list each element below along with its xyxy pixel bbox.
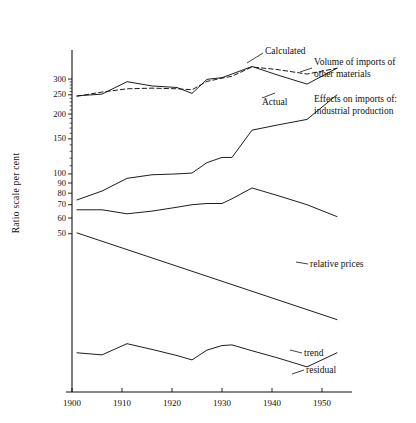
series-line-relative-prices (77, 188, 337, 217)
y-axis-title: Ratio scale per cent (11, 138, 21, 248)
chart-series-group (77, 66, 337, 366)
annotation-effects-line-2: industrial production (314, 106, 393, 116)
y-tick-label: 200 (24, 109, 66, 119)
annotation-relative-prices: relative prices (310, 258, 364, 270)
x-tick-label: 1920 (152, 398, 192, 408)
leader-line-relative-prices (296, 262, 308, 264)
y-tick-label: 100 (24, 168, 66, 178)
x-tick-label: 1930 (202, 398, 242, 408)
annotation-effects-line-1: Effects on imports of: (314, 94, 397, 104)
annotation-volume-line-1: Volume of imports of (314, 57, 395, 67)
y-tick-label: 90 (24, 178, 66, 188)
y-tick-label: 60 (24, 213, 66, 223)
series-line-trend (77, 233, 337, 320)
annotation-residual: residual (306, 364, 336, 376)
chart-figure: Ratio scale per cent 5060708090100150200… (0, 0, 416, 423)
leader-line-trend (290, 350, 302, 353)
x-tick-label: 1940 (252, 398, 292, 408)
y-tick-label: 70 (24, 199, 66, 209)
leader-line-volume (300, 68, 312, 72)
leader-line-calculated (247, 53, 263, 63)
chart-axes (66, 50, 352, 392)
annotation-volume-of-imports: Volume of imports of other materials (314, 56, 414, 80)
y-tick-label: 150 (24, 133, 66, 143)
leader-line-residual (292, 370, 304, 374)
y-axis-ticks (68, 79, 72, 234)
y-tick-label: 80 (24, 188, 66, 198)
x-tick-label: 1900 (52, 398, 92, 408)
y-tick-label: 50 (24, 228, 66, 238)
annotation-effects-on-imports: Effects on imports of: industrial produc… (314, 93, 414, 117)
annotation-volume-line-2: other materials (314, 69, 371, 79)
annotation-calculated: Calculated (265, 45, 306, 57)
series-line-industrial-production (77, 95, 337, 200)
series-line-residual (77, 344, 337, 367)
x-axis-ticks (72, 388, 322, 392)
y-tick-label: 300 (24, 74, 66, 84)
annotation-actual: Actual (262, 96, 287, 108)
y-tick-label: 250 (24, 89, 66, 99)
annotation-trend: trend (304, 347, 324, 359)
x-tick-label: 1910 (102, 398, 142, 408)
x-tick-label: 1950 (302, 398, 342, 408)
